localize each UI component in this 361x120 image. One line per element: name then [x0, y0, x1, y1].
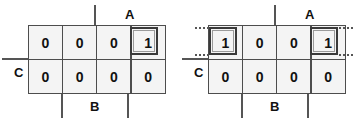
kmap-cell: 1: [209, 26, 242, 59]
a-marker-line-bottom-left: [127, 92, 129, 118]
wrap-dots-left-bottom: [195, 54, 209, 58]
wrap-dots-left-top: [195, 27, 209, 31]
kmap-right: A B C 1 0 0 1 0 0 0 0: [180, 0, 361, 120]
kmap-cell: 0: [63, 60, 96, 93]
variable-label-b-right: B: [270, 100, 279, 113]
wrap-dots-right-top: [339, 27, 353, 31]
kmap-cell: 0: [243, 60, 276, 93]
b-marker-line-bottom-right: [241, 92, 243, 118]
variable-label-a-left: A: [125, 8, 134, 21]
a-marker-line-bottom-right: [307, 92, 309, 118]
variable-label-a-right: A: [305, 8, 314, 21]
kmap-cell: 1: [132, 26, 165, 59]
kmap-cell: 0: [243, 26, 276, 59]
kmap-left: A B C 0 0 0 1 0 0 0 0: [0, 0, 181, 120]
kmap-cell: 0: [97, 60, 130, 93]
kmap-cell: 0: [97, 26, 130, 59]
kmap-cell: 0: [277, 26, 310, 59]
variable-label-c-left: C: [14, 66, 23, 79]
kmap-diagram: A B C 0 0 0 1 0 0 0 0 A: [0, 0, 361, 120]
b-marker-line-bottom-left: [61, 92, 63, 118]
kmap-cell: 0: [63, 26, 96, 59]
kmap-cell: 0: [132, 60, 165, 93]
kmap-grid-right: 1 0 0 1 0 0 0 0: [208, 25, 346, 94]
variable-label-c-right: C: [194, 66, 203, 79]
kmap-grid-left: 0 0 0 1 0 0 0 0: [28, 25, 166, 94]
wrap-dots-right-bottom: [339, 54, 353, 58]
b-marker-line-top-right: [274, 5, 276, 27]
kmap-cell: 0: [209, 60, 242, 93]
kmap-cell: 0: [277, 60, 310, 93]
variable-label-b-left: B: [90, 100, 99, 113]
b-marker-line-top-left: [94, 5, 96, 27]
kmap-cell: 0: [29, 26, 62, 59]
kmap-cell: 0: [312, 60, 345, 93]
kmap-cell: 0: [29, 60, 62, 93]
